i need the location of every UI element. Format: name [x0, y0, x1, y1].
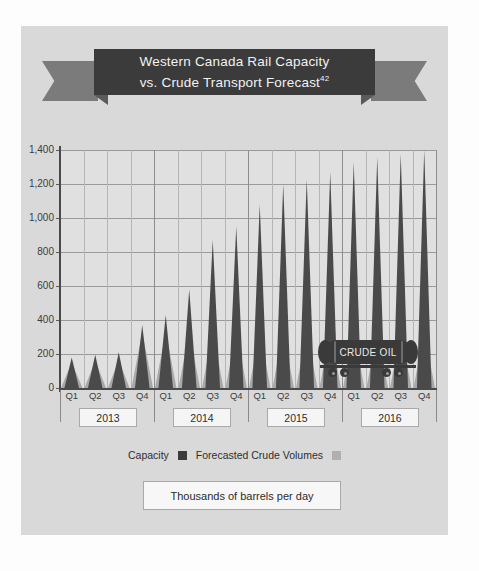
y-axis-line	[59, 146, 61, 392]
legend-swatch-capacity	[178, 451, 187, 460]
x-axis-year-label: 2013	[79, 408, 137, 427]
y-axis-tick-label: 1,000	[10, 212, 54, 223]
forecast-spike	[229, 227, 244, 389]
title-ribbon: Western Canada Rail Capacity vs. Crude T…	[21, 44, 448, 106]
ribbon-tail-right	[371, 61, 427, 101]
wheelset-left	[328, 368, 352, 379]
x-axis-quarter-label: Q1	[248, 390, 272, 401]
x-axis-quarter-label: Q4	[319, 390, 343, 401]
x-axis-quarter-label: Q2	[178, 390, 202, 401]
y-axis-tick-label: 400	[10, 314, 54, 325]
forecast-spike	[158, 315, 173, 388]
y-axis-labels: 02004006008001,0001,2001,400	[10, 150, 54, 388]
x-axis-year-label: 2015	[267, 408, 325, 427]
y-axis-tick-label: 1,200	[10, 178, 54, 189]
wheel-icon	[340, 368, 349, 377]
wheel-icon	[328, 368, 337, 377]
x-axis-quarter-label: Q2	[84, 390, 108, 401]
y-axis-tick-label: 600	[10, 280, 54, 291]
chart-units-caption: Thousands of barrels per day	[143, 481, 341, 510]
wheel-icon	[394, 368, 403, 377]
x-axis-year-label: 2016	[361, 408, 419, 427]
x-axis-year-labels: 2013201420152016	[60, 408, 436, 428]
x-axis-quarter-labels: Q1Q2Q3Q4Q1Q2Q3Q4Q1Q2Q3Q4Q1Q2Q3Q4	[60, 390, 436, 406]
page-root: Western Canada Rail Capacity vs. Crude T…	[0, 0, 479, 571]
wheel-icon	[382, 368, 391, 377]
x-axis-quarter-label: Q1	[154, 390, 178, 401]
x-axis-quarter-label: Q1	[60, 390, 84, 401]
x-axis-quarter-label: Q3	[295, 390, 319, 401]
tank-car-label: CRUDE OIL	[332, 344, 404, 360]
legend-label-forecast: Forecasted Crude Volumes	[196, 449, 323, 461]
y-axis-tick-label: 800	[10, 246, 54, 257]
x-axis-quarter-label: Q4	[131, 390, 155, 401]
forecast-spike	[252, 204, 267, 388]
forecast-spike	[64, 357, 79, 388]
chart-title-line1: Western Canada Rail Capacity	[140, 54, 330, 69]
x-axis-quarter-label: Q4	[225, 390, 249, 401]
title-banner: Western Canada Rail Capacity vs. Crude T…	[94, 49, 375, 95]
crude-oil-tank-car-icon: CRUDE OIL	[318, 338, 418, 382]
chart-title-line2: vs. Crude Transport Forecast	[140, 75, 320, 90]
forecast-spike	[299, 179, 314, 388]
y-axis-tick-label: 1,400	[10, 144, 54, 155]
x-axis-quarter-label: Q1	[342, 390, 366, 401]
title-footnote-marker: 42	[320, 74, 329, 83]
x-axis-quarter-label: Q2	[366, 390, 390, 401]
x-axis-year-label: 2014	[173, 408, 231, 427]
y-axis-tick-label: 200	[10, 348, 54, 359]
forecast-spike	[276, 184, 291, 388]
forecast-spike	[88, 355, 103, 388]
forecast-spike	[111, 352, 126, 388]
x-axis-quarter-label: Q3	[201, 390, 225, 401]
x-axis-quarter-label: Q4	[413, 390, 437, 401]
x-axis-quarter-label: Q2	[272, 390, 296, 401]
forecast-spike	[205, 240, 220, 388]
legend-swatch-forecast	[332, 451, 341, 460]
y-axis-tick-label: 0	[10, 382, 54, 393]
chart-legend: Capacity Forecasted Crude Volumes	[21, 446, 448, 464]
quarter-group-separator	[436, 390, 437, 422]
ribbon-tail-left	[42, 61, 98, 101]
x-axis-quarter-label: Q3	[107, 390, 131, 401]
forecast-spike	[135, 325, 150, 388]
wheelset-right	[382, 368, 406, 379]
forecast-spike	[182, 289, 197, 388]
forecast-spike	[417, 150, 432, 388]
legend-label-capacity: Capacity	[128, 449, 169, 461]
gridline-vertical	[436, 150, 437, 388]
x-axis-quarter-label: Q3	[389, 390, 413, 401]
